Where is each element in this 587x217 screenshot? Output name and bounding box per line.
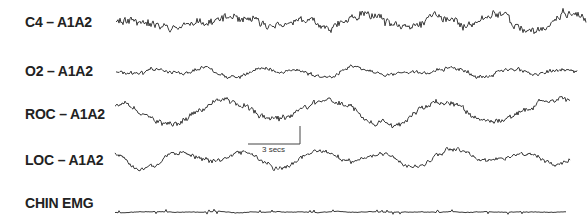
trace-c4 <box>116 8 586 33</box>
trace-o2 <box>116 65 577 79</box>
trace-chin-emg <box>115 209 566 214</box>
trace-roc <box>115 96 570 127</box>
time-scale-label: 3 secs <box>262 145 285 154</box>
trace-loc <box>115 147 570 171</box>
psg-figure: C4 – A1A2 O2 – A1A2 ROC – A1A2 LOC – A1A… <box>0 0 587 217</box>
time-scale-bar <box>248 126 300 144</box>
traces-canvas <box>0 0 587 217</box>
